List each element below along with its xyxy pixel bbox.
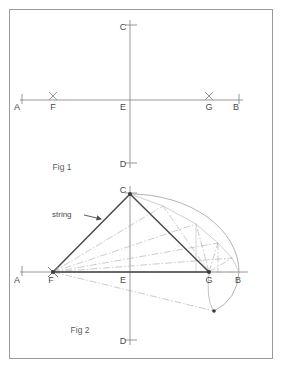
fig2-group: string A F E G B C D Fig 2 bbox=[14, 185, 248, 350]
fig2-label-c: C bbox=[120, 185, 127, 195]
ray-f-6 bbox=[53, 272, 214, 311]
ray-g-1 bbox=[163, 206, 209, 272]
ray-g-3 bbox=[209, 243, 218, 272]
string-leader-arrow bbox=[84, 215, 101, 219]
fig2-caption: Fig 2 bbox=[71, 325, 90, 335]
string-label: string bbox=[52, 210, 72, 219]
fig2-label-d: D bbox=[120, 336, 127, 346]
fig1-label-e: E bbox=[120, 102, 126, 112]
fig2-apex-point-c bbox=[128, 192, 132, 196]
ellipse-construction-svg: A F E G B C D Fig 1 bbox=[0, 0, 285, 369]
ray-f-4 bbox=[53, 258, 232, 272]
fig2-label-b: B bbox=[235, 275, 241, 285]
drawing-sheet: A F E G B C D Fig 1 bbox=[0, 0, 285, 369]
fig2-arc-chords bbox=[130, 194, 239, 272]
fig2-label-a: A bbox=[14, 275, 20, 285]
fig1-label-b: B bbox=[233, 102, 239, 112]
fig1-label-c: C bbox=[120, 22, 127, 32]
page-border bbox=[10, 10, 273, 359]
fig2-label-e: E bbox=[120, 275, 126, 285]
fig1-group: A F E G B C D Fig 1 bbox=[14, 20, 243, 172]
ray-f-2 bbox=[53, 224, 196, 272]
fig2-label-f: F bbox=[48, 275, 54, 285]
fig1-caption: Fig 1 bbox=[53, 162, 72, 172]
fig2-focus-point-g bbox=[207, 270, 211, 274]
fig2-trace-point-lower bbox=[212, 309, 216, 313]
fig2-construction-rays-from-g bbox=[163, 206, 232, 272]
fig2-string-path-fcg bbox=[53, 194, 209, 272]
fig1-focus-marker-g bbox=[205, 92, 213, 100]
fig1-focus-marker-f bbox=[49, 92, 57, 100]
fig1-label-d: D bbox=[120, 159, 127, 169]
fig1-label-f: F bbox=[50, 102, 56, 112]
fig2-construction-rays-from-f bbox=[53, 206, 239, 311]
ray-g-4 bbox=[209, 258, 232, 272]
fig1-label-g: G bbox=[205, 102, 212, 112]
fig2-focus-point-f bbox=[51, 270, 55, 274]
fig2-label-g: G bbox=[205, 275, 212, 285]
fig1-label-a: A bbox=[14, 102, 20, 112]
